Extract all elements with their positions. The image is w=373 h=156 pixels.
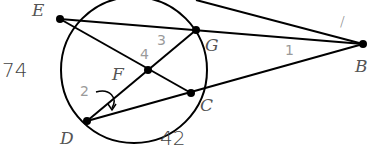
angle-4-label: 4 xyxy=(140,47,149,61)
arc-ED-measure: 74 xyxy=(2,60,27,80)
label-B: B xyxy=(355,58,368,75)
label-C: C xyxy=(200,97,213,114)
handwritten-tick: / xyxy=(340,14,345,28)
point-G xyxy=(192,26,200,34)
arc-DC-measure: 42 xyxy=(160,128,185,148)
angle-3-label: 3 xyxy=(157,33,166,47)
label-F: F xyxy=(112,66,124,83)
chord-EC xyxy=(60,19,191,93)
segment-DB xyxy=(87,44,363,121)
point-E xyxy=(56,15,64,23)
point-F xyxy=(144,66,152,74)
label-D: D xyxy=(60,130,74,147)
point-B xyxy=(359,40,367,48)
label-E: E xyxy=(32,2,44,19)
point-D xyxy=(83,117,91,125)
point-C xyxy=(187,89,195,97)
angle-2-label: 2 xyxy=(80,84,89,98)
geometry-diagram xyxy=(0,0,373,156)
label-G: G xyxy=(205,37,219,54)
angle-1-label: 1 xyxy=(285,43,294,57)
